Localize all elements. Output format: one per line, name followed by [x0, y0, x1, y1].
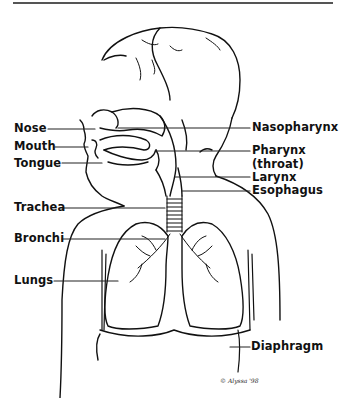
body-outline [60, 176, 280, 398]
diaphragm [97, 330, 250, 360]
hair-strokes [136, 38, 220, 80]
label-esophagus: Esophagus [252, 184, 323, 197]
leader-lines [48, 128, 250, 347]
bronchi [130, 234, 218, 282]
label-mouth: Mouth [14, 140, 56, 153]
label-nasopharynx: Nasopharynx [252, 121, 338, 134]
label-tongue: Tongue [14, 157, 61, 170]
face-profile [80, 109, 165, 206]
label-pharynx: Pharynx [252, 144, 306, 157]
label-nose: Nose [14, 122, 47, 135]
trachea [167, 196, 182, 232]
artist-credit: © Alyssa '98 [220, 377, 258, 384]
right-lung [182, 223, 243, 330]
side-lines [102, 250, 254, 372]
label-lungs: Lungs [14, 274, 53, 287]
label-diaphragm: Diaphragm [251, 340, 323, 353]
label-trachea: Trachea [14, 201, 65, 214]
label-bronchi: Bronchi [14, 232, 64, 245]
